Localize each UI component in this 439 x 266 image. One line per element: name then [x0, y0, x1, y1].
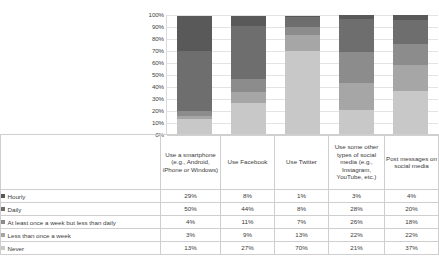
bar-segment — [177, 119, 212, 135]
data-cell: 29% — [161, 190, 221, 203]
data-cell: 4% — [385, 190, 439, 203]
data-cell: 27% — [221, 242, 275, 255]
data-cell: 3% — [329, 190, 385, 203]
bar-segment — [339, 52, 374, 83]
data-cell: 9% — [221, 229, 275, 242]
y-axis-tick: 90% — [152, 24, 164, 30]
legend-swatch-icon — [1, 194, 5, 198]
data-cell: 13% — [161, 242, 221, 255]
data-cell: 22% — [385, 229, 439, 242]
bar-segment — [339, 83, 374, 109]
bar-segment — [285, 35, 320, 51]
data-cell: 4% — [161, 216, 221, 229]
data-cell: 37% — [385, 242, 439, 255]
legend-swatch-icon — [1, 207, 5, 211]
bar-segment — [339, 110, 374, 135]
legend-item: At least once a week but less than daily — [1, 216, 161, 229]
category-header-cell: Use a smartphone (e.g., Android, iPhone … — [161, 135, 221, 190]
legend-label: Hourly — [8, 193, 26, 200]
category-header-cell: Post messages on social media — [385, 135, 439, 190]
bar-column — [393, 15, 428, 135]
bar-segment — [177, 16, 212, 51]
category-header-cell: Use some other types of social media (e.… — [329, 135, 385, 190]
category-header-cell: Use Twitter — [275, 135, 329, 190]
bar-segment — [177, 51, 212, 111]
y-axis-tick: 60% — [152, 60, 164, 66]
data-cell: 26% — [329, 216, 385, 229]
data-cell: 21% — [329, 242, 385, 255]
bar-segment — [393, 20, 428, 44]
y-axis-tick: 10% — [152, 120, 164, 126]
data-cell: 70% — [275, 242, 329, 255]
legend-label: Never — [8, 245, 25, 252]
legend-label: Daily — [8, 206, 22, 213]
legend-swatch-icon — [1, 220, 5, 224]
bar-segment — [285, 17, 320, 27]
data-cell: 18% — [385, 216, 439, 229]
y-axis-tick: 50% — [152, 72, 164, 78]
bar-column — [231, 15, 266, 135]
table-row: Hourly29%8%1%3%4% — [1, 190, 439, 203]
data-cell: 3% — [161, 229, 221, 242]
y-axis-tick: 100% — [149, 12, 164, 18]
table-row: At least once a week but less than daily… — [1, 216, 439, 229]
data-cell: 44% — [221, 203, 275, 216]
bar-segment — [393, 44, 428, 65]
data-cell: 50% — [161, 203, 221, 216]
plot-area — [166, 15, 438, 135]
table-row: Daily50%44%8%28%20% — [1, 203, 439, 216]
bar-column — [339, 15, 374, 135]
legend-header-spacer — [1, 135, 161, 190]
data-table-wrapper: Use a smartphone (e.g., Android, iPhone … — [0, 134, 438, 255]
legend-swatch-icon — [1, 246, 5, 250]
bar-segment — [231, 16, 266, 26]
legend-label: At least once a week but less than daily — [8, 219, 116, 226]
data-cell: 1% — [275, 190, 329, 203]
bar-segment — [231, 103, 266, 135]
bar-column — [285, 15, 320, 135]
y-axis-tick: 40% — [152, 84, 164, 90]
data-cell: 8% — [275, 203, 329, 216]
bar-segment — [393, 65, 428, 91]
bar-column — [177, 15, 212, 135]
y-axis-tick: 80% — [152, 36, 164, 42]
legend-item: Less than once a week — [1, 229, 161, 242]
bar-segment — [393, 91, 428, 135]
legend-item: Hourly — [1, 190, 161, 203]
bar-segment — [339, 19, 374, 53]
data-cell: 28% — [329, 203, 385, 216]
y-axis-tick: 70% — [152, 48, 164, 54]
bar-segment — [285, 27, 320, 35]
table-row: Never13%27%70%21%37% — [1, 242, 439, 255]
y-axis: 100%90%80%70%60%50%40%30%20%10%0% — [133, 12, 164, 134]
bar-segment — [231, 79, 266, 92]
legend-item: Daily — [1, 203, 161, 216]
legend-swatch-icon — [1, 233, 5, 237]
data-cell: 7% — [275, 216, 329, 229]
data-cell: 22% — [329, 229, 385, 242]
data-cell: 11% — [221, 216, 275, 229]
bar-segment — [231, 26, 266, 79]
legend-item: Never — [1, 242, 161, 255]
bar-segment — [231, 92, 266, 103]
table-header-row: Use a smartphone (e.g., Android, iPhone … — [1, 135, 439, 190]
data-cell: 13% — [275, 229, 329, 242]
data-cell: 20% — [385, 203, 439, 216]
y-axis-tick: 20% — [152, 108, 164, 114]
plot-wrapper: 100%90%80%70%60%50%40%30%20%10%0% — [0, 0, 438, 140]
data-cell: 8% — [221, 190, 275, 203]
bar-segment — [285, 51, 320, 135]
table-row: Less than once a week3%9%13%22%22% — [1, 229, 439, 242]
y-axis-tick: 30% — [152, 96, 164, 102]
data-table: Use a smartphone (e.g., Android, iPhone … — [0, 134, 439, 255]
legend-label: Less than once a week — [8, 232, 71, 239]
category-header-cell: Use Facebook — [221, 135, 275, 190]
